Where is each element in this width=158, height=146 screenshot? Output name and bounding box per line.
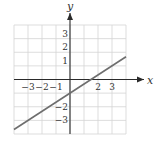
x-tick-labels: −3−2−123 (21, 82, 115, 92)
x-tick-label: 2 (95, 82, 101, 92)
x-tick-label: −2 (35, 82, 48, 92)
x-tick-label: −3 (21, 82, 35, 92)
y-tick-label: −3 (55, 115, 69, 125)
y-tick-label: −2 (55, 102, 68, 112)
y-tick-label: 3 (62, 29, 68, 39)
x-tick-label: 3 (109, 82, 115, 92)
y-tick-labels: 321−2−3 (55, 29, 69, 126)
y-axis-label: y (66, 0, 74, 13)
x-tick-label: −1 (49, 82, 62, 92)
x-axis-label: x (147, 74, 154, 87)
y-axis-arrow-icon (67, 13, 73, 20)
coordinate-plane: −3−2−123 321−2−3 x y (0, 0, 158, 146)
x-axis-arrow-icon (137, 77, 144, 83)
y-tick-label: 2 (62, 42, 68, 52)
y-tick-label: 1 (62, 56, 68, 66)
